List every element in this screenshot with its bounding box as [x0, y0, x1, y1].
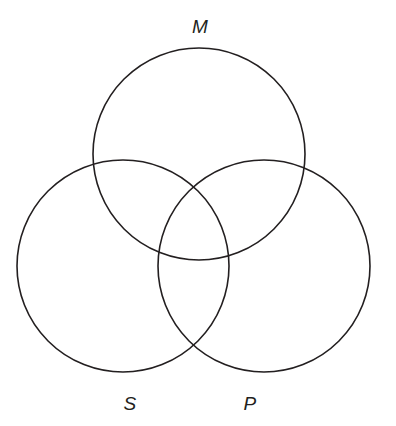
label-s: S: [124, 393, 137, 414]
venn-diagram-canvas: M S P: [0, 0, 396, 426]
venn-diagram-figure: M S P: [0, 0, 396, 426]
label-m: M: [192, 16, 208, 37]
figure-background: [0, 0, 396, 426]
label-p: P: [244, 393, 257, 414]
